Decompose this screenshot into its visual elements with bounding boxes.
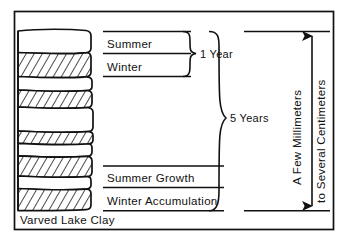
label-summer-growth: Summer Growth	[107, 172, 195, 184]
varve-band-winter-4	[18, 90, 92, 108]
varve-diagram: Summer Winter 1 Year 5 Years Summer Grow…	[0, 0, 348, 243]
label-summer: Summer	[107, 38, 152, 50]
varve-band-summer-9	[18, 176, 91, 190]
label-thickness-line2: to Several Centimeters	[315, 79, 327, 203]
label-winter: Winter	[107, 61, 142, 73]
varve-band-winter-8	[18, 156, 92, 177]
varve-band-winter-2	[18, 53, 91, 78]
varve-column	[18, 29, 93, 210]
varve-band-summer-3	[18, 77, 92, 92]
label-thickness-line1: A Few Millimeters	[291, 90, 303, 185]
label-winter-accumulation: Winter Accumulation	[107, 195, 218, 207]
figure-varved-lake-clay: Summer Winter 1 Year 5 Years Summer Grow…	[0, 0, 348, 243]
label-one-year: 1 Year	[200, 48, 233, 60]
figure-caption: Varved Lake Clay	[20, 214, 115, 226]
label-five-years: 5 Years	[230, 112, 269, 124]
varve-band-summer-1	[18, 29, 91, 53]
varve-band-winter-10	[18, 189, 91, 211]
varve-band-summer-7	[18, 143, 92, 157]
varve-band-summer-5	[18, 107, 93, 132]
varve-band-winter-6	[18, 131, 93, 145]
